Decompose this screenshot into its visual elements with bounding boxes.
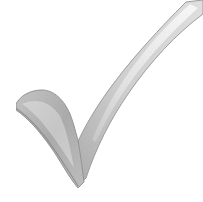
checkmark-right-arm <box>72 0 203 186</box>
checkmark-graphic: 3D grayscale check mark <box>0 0 203 202</box>
checkmark-icon <box>0 0 203 202</box>
